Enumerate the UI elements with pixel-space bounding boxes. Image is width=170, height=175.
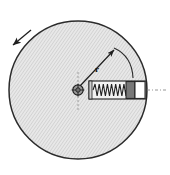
- physics-diagram: r: [0, 0, 170, 175]
- end-block: [135, 82, 145, 99]
- figure-container: r: [0, 0, 170, 175]
- housing-left-cap: [89, 81, 92, 99]
- hub-inner-circle: [76, 88, 80, 92]
- spring-mass-assembly: [89, 81, 146, 99]
- mass-block: [126, 82, 135, 99]
- radius-label: r: [95, 64, 99, 74]
